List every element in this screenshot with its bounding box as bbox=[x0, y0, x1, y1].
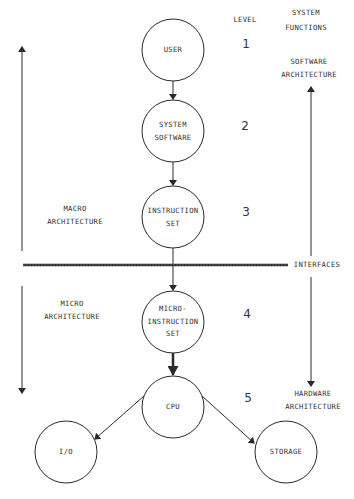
level-3: 3 bbox=[242, 205, 250, 219]
node-storage-label: STORAGE bbox=[270, 446, 302, 459]
macro-line2: ARCHITECTURE bbox=[47, 215, 103, 228]
level-header: LEVEL bbox=[233, 13, 256, 26]
software-line2: ARCHITECTURE bbox=[281, 68, 337, 81]
hardware-architecture-label: HARDWARE ARCHITECTURE bbox=[285, 387, 341, 413]
micro-line1: MICRO bbox=[44, 297, 100, 310]
node-cpu-label: CPU bbox=[166, 401, 180, 414]
node-label-line: SYSTEM bbox=[154, 119, 191, 132]
node-label-line: MICRO- bbox=[148, 303, 199, 316]
micro-line2: ARCHITECTURE bbox=[44, 310, 100, 323]
edge-cpu-to-io bbox=[95, 396, 144, 439]
node-label-line: SOFTWARE bbox=[154, 131, 191, 144]
macro-line1: MACRO bbox=[47, 202, 103, 215]
level-2: 2 bbox=[241, 119, 249, 133]
node-user-label: USER bbox=[164, 44, 183, 57]
system-functions-line1: SYSTEM bbox=[285, 6, 327, 19]
node-micro-instruction-set-label: MICRO- INSTRUCTION SET bbox=[148, 303, 199, 341]
node-instruction-set-label: INSTRUCTION SET bbox=[148, 205, 199, 230]
software-architecture-label: SOFTWARE ARCHITECTURE bbox=[281, 55, 337, 81]
node-label-line: INSTRUCTION bbox=[148, 316, 199, 329]
level-1: 1 bbox=[242, 37, 250, 51]
interfaces-label: INTERFACES bbox=[294, 258, 340, 271]
software-line1: SOFTWARE bbox=[281, 55, 337, 68]
hardware-line2: ARCHITECTURE bbox=[285, 400, 341, 413]
node-io-label: I/O bbox=[59, 446, 73, 459]
macro-architecture-label: MACRO ARCHITECTURE bbox=[47, 202, 103, 228]
node-label-line: INSTRUCTION bbox=[148, 205, 199, 218]
level-5: 5 bbox=[244, 391, 252, 405]
micro-architecture-label: MICRO ARCHITECTURE bbox=[44, 297, 100, 323]
system-functions-header: SYSTEM FUNCTIONS bbox=[285, 6, 327, 34]
level-4: 4 bbox=[243, 307, 251, 321]
system-functions-line2: FUNCTIONS bbox=[285, 21, 327, 34]
node-label-line: SET bbox=[148, 217, 199, 230]
hardware-line1: HARDWARE bbox=[285, 387, 341, 400]
node-system-software-label: SYSTEM SOFTWARE bbox=[154, 119, 191, 144]
node-label-line: SET bbox=[148, 328, 199, 341]
